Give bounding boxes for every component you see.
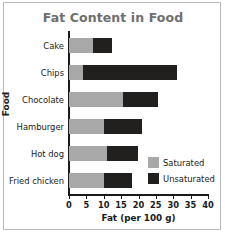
legend-swatch-unsaturated <box>148 173 159 184</box>
bar-segment-saturated <box>69 146 107 161</box>
y-axis-tick-label: Hamburger <box>17 122 64 132</box>
x-axis-tick-label: 5 <box>83 200 89 210</box>
chart-title: Fat Content in Food <box>4 10 222 25</box>
bar-row: Chocolate <box>69 92 158 107</box>
bar-segment-saturated <box>69 65 83 80</box>
y-axis-tick-label: Hot dog <box>31 149 64 159</box>
y-axis-tick-label: Cake <box>43 41 64 51</box>
legend-swatch-saturated <box>148 157 159 168</box>
bar-row: Chips <box>69 65 177 80</box>
x-axis-tick-label: 30 <box>167 200 179 210</box>
bar-segment-unsaturated <box>93 38 112 53</box>
chart-container: Fat Content in Food CakeChipsChocolateHa… <box>3 2 221 230</box>
bar-segment-saturated <box>69 119 104 134</box>
x-axis-tick <box>86 195 87 199</box>
x-axis-tick <box>191 195 192 199</box>
bar-row: Hamburger <box>69 119 142 134</box>
bar-segment-unsaturated <box>123 92 158 107</box>
x-axis-tick-label: 10 <box>98 200 110 210</box>
bar-row: Cake <box>69 38 112 53</box>
bar-segment-unsaturated <box>104 119 142 134</box>
legend-item: Unsaturated <box>148 172 215 185</box>
x-axis-tick-label: 35 <box>185 200 197 210</box>
x-axis-tick <box>69 195 70 199</box>
bar-row: Fried chicken <box>69 173 132 188</box>
x-axis-tick-label: 15 <box>115 200 127 210</box>
legend-label: Unsaturated <box>163 174 215 184</box>
bar-row: Hot dog <box>69 146 139 161</box>
x-axis-tick <box>156 195 157 199</box>
x-axis-tick <box>208 195 209 199</box>
bar-segment-saturated <box>69 92 123 107</box>
legend-label: Saturated <box>163 158 204 168</box>
y-axis-tick-label: Fried chicken <box>9 176 64 186</box>
legend-item: Saturated <box>148 156 215 169</box>
x-axis-tick-label: 40 <box>202 200 214 210</box>
x-axis-tick <box>173 195 174 199</box>
bar-segment-saturated <box>69 173 104 188</box>
x-axis-tick <box>104 195 105 199</box>
bar-segment-unsaturated <box>83 65 177 80</box>
x-axis-tick <box>121 195 122 199</box>
y-axis-tick-label: Chips <box>41 68 64 78</box>
bar-segment-unsaturated <box>104 173 132 188</box>
x-axis-tick-label: 20 <box>133 200 145 210</box>
x-axis-title: Fat (per 100 g) <box>68 213 209 223</box>
legend: SaturatedUnsaturated <box>148 156 215 188</box>
x-axis-tick-label: 0 <box>66 200 72 210</box>
x-axis-tick-label: 25 <box>150 200 162 210</box>
x-axis-tick <box>139 195 140 199</box>
bar-segment-unsaturated <box>107 146 138 161</box>
y-axis-title: Food <box>1 92 11 117</box>
y-axis-tick-label: Chocolate <box>22 95 64 105</box>
bar-segment-saturated <box>69 38 93 53</box>
